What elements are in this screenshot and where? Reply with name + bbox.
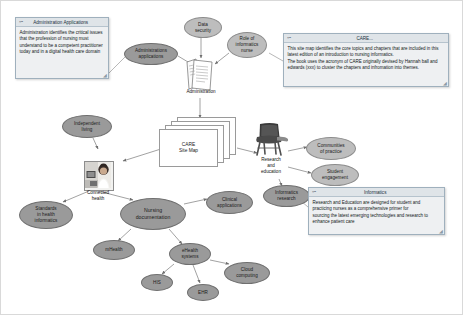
resize-grip-icon[interactable]: ◢ [443,81,447,86]
node-ehealth-systems[interactable]: eHealth systems [169,243,211,265]
node-label: mHealth [105,247,122,253]
node-communities-of-practice[interactable]: Communities of practice [306,137,356,160]
diagram-canvas: ❝❞ Administration Applications Administr… [0,0,463,315]
edge-ehealth-systems-to-his [162,264,174,274]
node-label: Administrations applications [135,48,167,60]
note-title-text: Informatics [317,190,441,195]
leader-admin-note [109,55,127,73]
resize-grip-icon[interactable]: ◢ [439,229,443,234]
connected-health-caption: Connected health [78,190,118,202]
note-care[interactable]: ❝❞ CARE... This site map identifies the … [283,33,449,87]
note-body-text: This site map identifies the core topics… [284,43,448,75]
sheet-front: CARE Site Map [159,129,218,167]
connected-health-photo [84,161,114,191]
note-titlebar: ❝❞ Administration Applications [16,18,108,27]
node-his[interactable]: HIS [141,274,173,291]
quote-icon: ❝❞ [287,36,290,41]
node-informatics-research[interactable]: Informatics research [263,185,310,207]
quote-icon: ❝❞ [312,190,315,195]
node-nursing-documentation[interactable]: Nursing documentation [120,198,186,230]
classroom-chair-icon [251,121,291,157]
edge-care-site-map-to-connected-health [123,148,164,161]
note-titlebar: ❝❞ Informatics [309,188,444,197]
node-administrations-applications[interactable]: Administrations applications [124,43,178,65]
quote-icon: ❝❞ [19,20,22,25]
node-label: Data security [195,22,211,34]
administration-documents-icon: Administration [184,56,218,98]
edge-nursing-documentation-to-clinical-applications [184,199,207,204]
note-body-text: Administration identifies the critical i… [16,27,108,59]
node-ehr[interactable]: EHR [187,284,219,301]
leader-care-note [269,53,283,61]
edge-ehealth-systems-to-ehr [193,265,200,283]
node-label: Standards in health informatics [35,206,58,224]
edge-ehealth-systems-to-cloud-computing [210,260,229,264]
node-student-engagement[interactable]: Student engagement [311,164,359,186]
note-title-text: CARE... [292,36,445,41]
node-label: eHealth systems [181,248,198,260]
node-label: EHR [198,290,208,296]
note-administration-applications[interactable]: ❝❞ Administration Applications Administr… [15,17,109,79]
node-label: Informatics research [275,190,298,202]
node-clinical-applications[interactable]: Clinical applications [206,191,253,214]
edge-independent-living-to-connected-health [93,138,98,149]
node-label: Cloud computing [236,267,258,279]
note-titlebar: ❝❞ CARE... [284,34,448,43]
node-label: Independent living [74,121,100,133]
node-label: Role of informatics nurse [236,36,259,54]
node-label: HIS [153,280,161,286]
node-label: Nursing documentation [136,207,171,220]
edge-nursing-documentation-to-ehealth-systems [169,229,182,244]
note-body-text: Research and Education are designed for … [309,197,444,229]
research-education-caption: Research and education [251,157,291,175]
node-label: Clinical applications [217,197,242,209]
edge-research-to-student-engagement [288,167,311,173]
care-site-map-document-stack: CARE Site Map [159,117,239,167]
node-mhealth[interactable]: mHealth [93,240,135,260]
node-data-security[interactable]: Data security [184,17,222,38]
administration-icon-caption: Administration [184,89,218,94]
node-independent-living[interactable]: Independent living [62,115,112,138]
node-standards-in-health-informatics[interactable]: Standards in health informatics [19,201,73,229]
node-label: Communities of practice [317,143,344,155]
edge-nursing-documentation-to-mhealth [118,229,131,241]
note-informatics[interactable]: ❝❞ Informatics Research and Education ar… [308,187,445,235]
note-title-text: Administration Applications [24,20,105,25]
node-label: Student engagement [322,169,348,181]
node-role-of-informatics-nurse[interactable]: Role of informatics nurse [227,32,267,58]
resize-grip-icon[interactable]: ◢ [103,73,107,78]
node-cloud-computing[interactable]: Cloud computing [224,262,270,284]
care-site-map-label: CARE Site Map [160,142,217,155]
